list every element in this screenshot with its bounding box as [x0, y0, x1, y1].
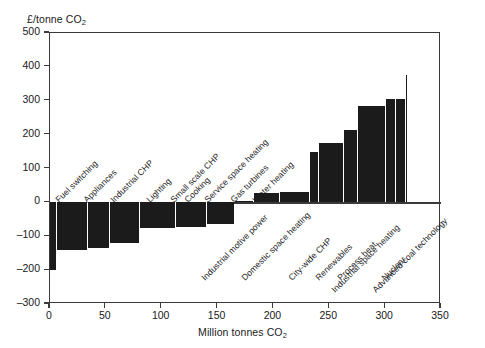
y-tick-label: –100 — [17, 228, 40, 240]
x-tick-mark — [104, 303, 105, 308]
bar — [395, 99, 405, 202]
bar — [385, 99, 395, 202]
y-tick-label: 500 — [22, 25, 40, 37]
bar — [309, 152, 318, 203]
x-axis-title-text: Million tonnes CO — [198, 326, 283, 338]
x-tick-mark — [216, 303, 217, 308]
bar — [139, 202, 175, 227]
x-tick-label: 200 — [252, 309, 292, 321]
y-tick-mark — [44, 31, 49, 32]
bar — [87, 202, 109, 248]
y-tick-label: 200 — [22, 127, 40, 139]
y-tick-mark — [44, 99, 49, 100]
y-axis-title-text: £/tonne CO — [27, 13, 82, 25]
x-tick-mark — [160, 303, 161, 308]
bar — [175, 202, 206, 226]
x-axis-title: Million tonnes CO2 — [0, 326, 485, 340]
x-axis-title-subscript: 2 — [283, 331, 287, 340]
y-tick-label: –200 — [17, 262, 40, 274]
x-tick-label: 100 — [141, 309, 181, 321]
bar — [206, 202, 234, 224]
x-tick-mark — [48, 303, 49, 308]
y-tick-mark — [44, 65, 49, 66]
bar — [405, 75, 407, 202]
x-tick-mark — [384, 303, 385, 308]
bar — [279, 192, 309, 202]
bar — [318, 143, 343, 202]
x-tick-mark — [439, 303, 440, 308]
y-tick-mark — [44, 201, 49, 202]
y-tick-label: 0 — [34, 194, 40, 206]
x-tick-label: 150 — [197, 309, 237, 321]
y-tick-mark — [44, 235, 49, 236]
bar — [56, 202, 87, 249]
x-tick-mark — [328, 303, 329, 308]
x-tick-label: 50 — [85, 309, 125, 321]
y-tick-mark — [44, 269, 49, 270]
y-axis-title-subscript: 2 — [82, 18, 86, 27]
x-tick-label: 300 — [364, 309, 404, 321]
x-tick-mark — [272, 303, 273, 308]
y-tick-label: –300 — [17, 296, 40, 308]
y-tick-mark — [44, 167, 49, 168]
bar — [109, 202, 139, 243]
x-tick-label: 250 — [308, 309, 348, 321]
y-tick-label: 400 — [22, 59, 40, 71]
chart-container: £/tonne CO2 5004003002001000–100–200–300… — [0, 0, 485, 348]
bar — [343, 130, 358, 203]
y-tick-label: 100 — [22, 161, 40, 173]
bar — [357, 106, 385, 203]
x-tick-label: 0 — [29, 309, 69, 321]
x-tick-label: 350 — [420, 309, 460, 321]
y-tick-label: 300 — [22, 93, 40, 105]
y-tick-mark — [44, 133, 49, 134]
